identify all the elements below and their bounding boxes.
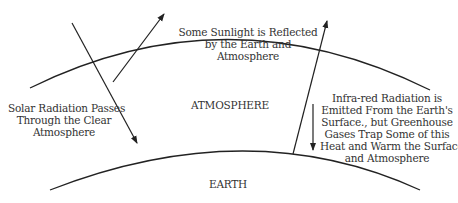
earth-label: EARTH: [198, 178, 258, 190]
reflected-sunlight-label: Some Sunlight is Reflected by the Earth …: [163, 26, 333, 62]
reflected-sunlight-arrow: [113, 14, 164, 82]
atmosphere-label: ATMOSPHERE: [185, 99, 275, 111]
solar-radiation-label: Solar Radiation Passes Through the Clear…: [8, 102, 120, 138]
greenhouse-effect-diagram: Some Sunlight is Reflected by the Earth …: [0, 0, 458, 203]
infrared-radiation-label: Infra-red Radiation is Emitted From the …: [320, 92, 454, 164]
